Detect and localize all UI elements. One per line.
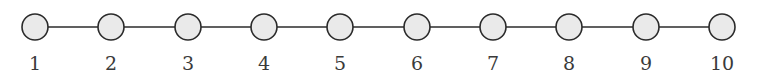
graph-node (22, 14, 48, 40)
graph-node (175, 14, 201, 40)
graph-node-label: 8 (563, 52, 575, 74)
graph-node (709, 14, 735, 40)
graph-node-label: 3 (182, 52, 194, 74)
graph-node-label: 10 (710, 52, 734, 74)
path-graph-canvas: 12345678910 (0, 0, 760, 78)
graph-node (327, 14, 353, 40)
graph-figure: 12345678910 (0, 0, 760, 78)
graph-node-label: 5 (334, 52, 346, 74)
graph-node (633, 14, 659, 40)
graph-node (98, 14, 124, 40)
graph-node-label: 7 (487, 52, 499, 74)
graph-node-label: 9 (640, 52, 652, 74)
graph-node (480, 14, 506, 40)
graph-node-label: 4 (258, 52, 270, 74)
graph-node-label: 1 (29, 52, 41, 74)
graph-node-label: 2 (105, 52, 117, 74)
graph-node (556, 14, 582, 40)
label-layer: 12345678910 (29, 52, 734, 74)
graph-node-label: 6 (411, 52, 423, 74)
graph-node (404, 14, 430, 40)
graph-node (251, 14, 277, 40)
